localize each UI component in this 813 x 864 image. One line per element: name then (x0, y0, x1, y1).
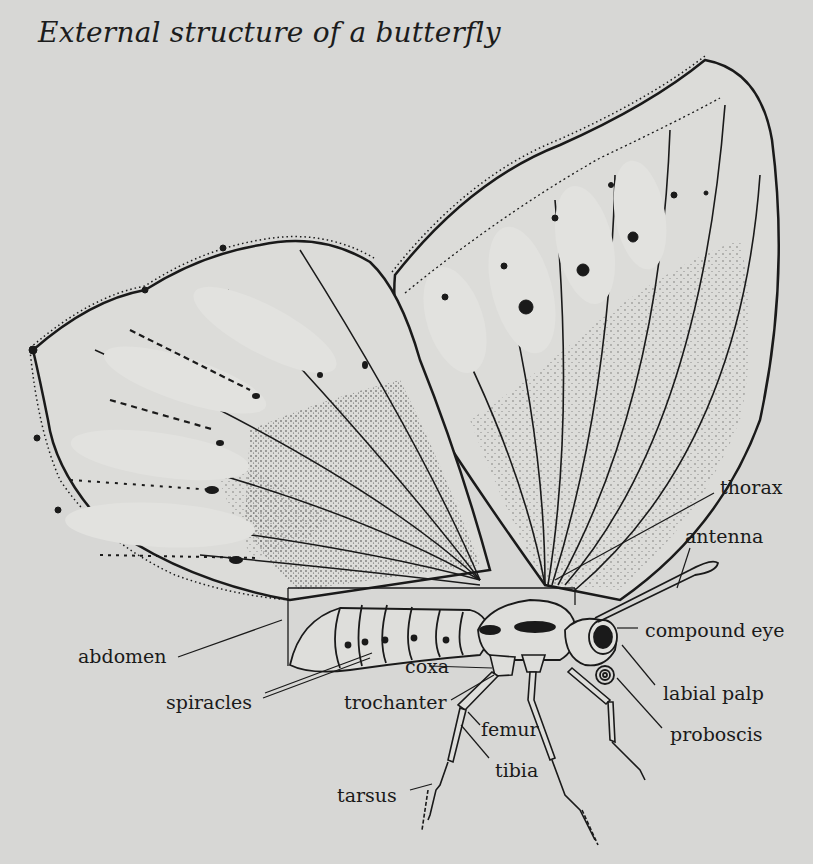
label-coxa: coxa (405, 657, 449, 676)
label-labial-palp: labial palp (663, 684, 764, 703)
label-thorax: thorax (720, 478, 782, 497)
label-abdomen: abdomen (78, 647, 167, 666)
legs (422, 655, 645, 845)
label-proboscis: proboscis (670, 725, 763, 744)
label-tibia: tibia (495, 761, 538, 780)
label-femur: femur (481, 720, 539, 739)
label-trochanter: trochanter (344, 693, 447, 712)
label-tarsus: tarsus (337, 786, 397, 805)
label-spiracles: spiracles (166, 693, 252, 712)
label-compound-eye: compound eye (645, 621, 785, 640)
label-antenna: antenna (685, 527, 763, 546)
abdomen-body (290, 605, 490, 672)
